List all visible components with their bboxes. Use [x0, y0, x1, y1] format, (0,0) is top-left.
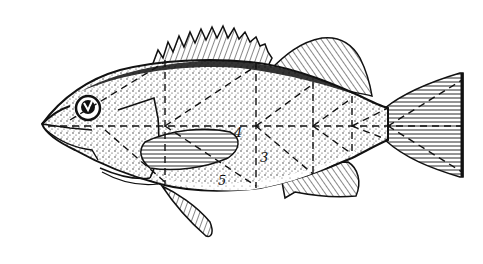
pelvic-fin [162, 186, 212, 236]
label-5: 5 [218, 173, 226, 188]
label-4: 4 [233, 125, 242, 140]
fish-illustration: 3 4 5 [0, 0, 483, 264]
caudal-fin [385, 73, 463, 177]
label-3: 3 [260, 150, 268, 165]
eye [76, 96, 100, 120]
fish-diagram: 3 4 5 [0, 0, 483, 264]
